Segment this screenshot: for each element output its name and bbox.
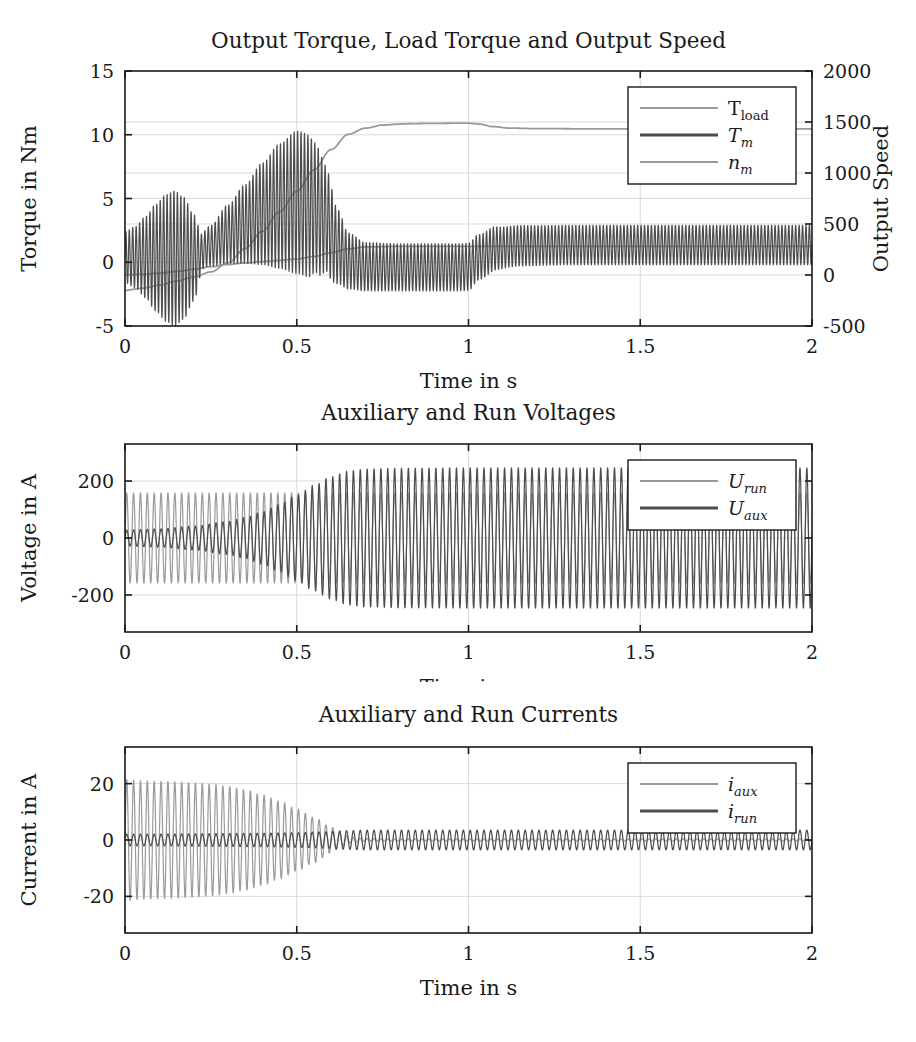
y2-tick-label: -500 — [823, 315, 866, 337]
chart-torque: 00.511.52-5051015-5000500100015002000Out… — [0, 0, 916, 400]
y-axis-title: Current in A — [17, 773, 41, 907]
x-tick-label: 2 — [806, 335, 818, 357]
panel-output-torque: 00.511.52-5051015-5000500100015002000Out… — [0, 0, 916, 400]
x-tick-label: 0.5 — [282, 942, 312, 964]
x-tick-label: 0 — [119, 641, 131, 663]
y2-tick-label: 1500 — [823, 111, 871, 133]
legend: TloadTmnm — [628, 87, 796, 184]
figure-container: 00.511.52-5051015-5000500100015002000Out… — [0, 0, 916, 1042]
panel-auxiliary-run-currents: 00.511.52-20020Auxiliary and Run Current… — [0, 682, 916, 1042]
x-axis-title: Time in s — [420, 675, 517, 682]
y-axis-title: Voltage in A — [17, 473, 41, 603]
panel-auxiliary-run-voltages: 00.511.52-2000200Auxiliary and Run Volta… — [0, 382, 916, 682]
y-tick-label: 20 — [90, 773, 114, 795]
y2-tick-label: 1000 — [823, 162, 871, 184]
y2-axis-title: Output Speed — [869, 125, 893, 272]
y-tick-label: -200 — [71, 584, 114, 606]
legend: iauxirun — [628, 763, 796, 833]
x-tick-label: 0 — [119, 335, 131, 357]
y-tick-label: 5 — [102, 188, 114, 210]
panel-title: Auxiliary and Run Voltages — [320, 400, 616, 425]
chart-voltage: 00.511.52-2000200Auxiliary and Run Volta… — [0, 382, 916, 682]
y-tick-label: 200 — [78, 470, 114, 492]
x-tick-label: 1 — [462, 335, 474, 357]
x-tick-label: 1 — [462, 942, 474, 964]
y-tick-label: 15 — [90, 60, 114, 82]
panel-title: Output Torque, Load Torque and Output Sp… — [211, 28, 726, 53]
y2-tick-label: 2000 — [823, 60, 871, 82]
y-tick-label: -5 — [95, 315, 114, 337]
y-tick-label: 0 — [102, 527, 114, 549]
y-tick-label: -20 — [83, 885, 114, 907]
y-axis-title: Torque in Nm — [17, 125, 41, 271]
x-tick-label: 2 — [806, 641, 818, 663]
y2-tick-label: 0 — [823, 264, 835, 286]
x-tick-label: 0 — [119, 942, 131, 964]
y2-tick-label: 500 — [823, 213, 859, 235]
x-tick-label: 0.5 — [282, 641, 312, 663]
legend: UrunUaux — [628, 460, 796, 530]
x-axis-title: Time in s — [420, 976, 517, 1000]
y-tick-label: 10 — [90, 124, 114, 146]
x-tick-label: 2 — [806, 942, 818, 964]
x-tick-label: 1.5 — [625, 335, 655, 357]
chart-current: 00.511.52-20020Auxiliary and Run Current… — [0, 682, 916, 1042]
x-tick-label: 1.5 — [625, 641, 655, 663]
y-tick-label: 0 — [102, 829, 114, 851]
y-tick-label: 0 — [102, 251, 114, 273]
x-tick-label: 1.5 — [625, 942, 655, 964]
x-tick-label: 0.5 — [282, 335, 312, 357]
x-tick-label: 1 — [462, 641, 474, 663]
panel-title: Auxiliary and Run Currents — [318, 702, 618, 727]
